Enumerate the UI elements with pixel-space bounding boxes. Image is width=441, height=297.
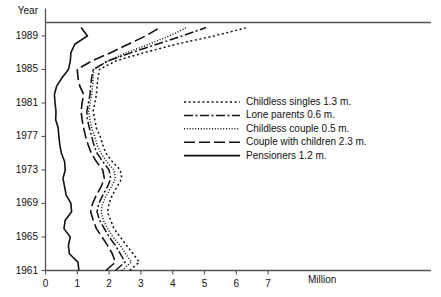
- y-tick-label: 1977: [0, 131, 38, 141]
- y-tick-label: 1981: [0, 98, 38, 108]
- axis-layer: [46, 9, 432, 271]
- legend-layer: [184, 102, 240, 156]
- legend-label: Couple with children 2.3 m.: [246, 137, 367, 147]
- x-tick-label: 0: [39, 279, 53, 289]
- series-layer: [54, 28, 247, 271]
- y-tick-label: 1989: [0, 31, 38, 41]
- series-line-2: [89, 28, 187, 271]
- series-line-0: [93, 28, 247, 271]
- x-tick-label: 1: [70, 279, 84, 289]
- y-tick-label: 1965: [0, 232, 38, 242]
- legend-label: Pensioners 1.2 m.: [246, 151, 327, 161]
- y-tick-label: 1973: [0, 165, 38, 175]
- x-tick-label: 4: [166, 279, 180, 289]
- x-tick-label: 3: [134, 279, 148, 289]
- y-tick-label: 1961: [0, 266, 38, 276]
- y-tick-label: 1969: [0, 198, 38, 208]
- legend-label: Lone parents 0.6 m.: [246, 110, 335, 120]
- x-tick-label: 2: [102, 279, 116, 289]
- x-tick-label: 6: [229, 279, 243, 289]
- legend-label: Childless singles 1.3 m.: [246, 97, 351, 107]
- series-line-4: [54, 28, 87, 271]
- y-tick-label: 1985: [0, 64, 38, 74]
- legend-label: Childless couple 0.5 m.: [246, 124, 349, 134]
- chart-plot-area: [0, 0, 441, 297]
- chart-container: Year Million 196119651969197319771981198…: [0, 0, 441, 297]
- x-tick-label: 5: [198, 279, 212, 289]
- x-tick-label: 7: [261, 279, 275, 289]
